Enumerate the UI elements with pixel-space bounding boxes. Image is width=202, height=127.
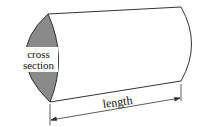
right-end-arc xyxy=(181,7,192,81)
top-edge xyxy=(48,7,181,14)
prism-diagram: cross section length xyxy=(0,0,202,127)
cross-section-label-line2: section xyxy=(23,59,55,71)
arrowhead-left-icon xyxy=(51,117,57,121)
arrowhead-right-icon xyxy=(175,98,181,101)
length-label: length xyxy=(102,93,134,111)
prism-body xyxy=(48,7,192,102)
